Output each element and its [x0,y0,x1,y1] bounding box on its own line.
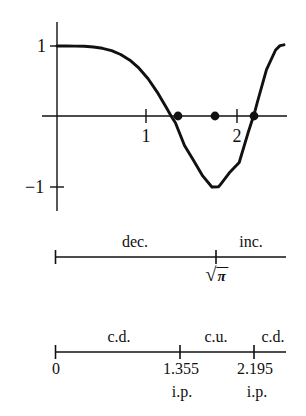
first-derivative-segment-dec: dec. [122,234,148,250]
radical-sign-icon: √ [205,264,216,284]
second-derivative-segment-cd-right: c.d. [261,329,284,345]
second-derivative-segment-cu: c.u. [204,329,227,345]
graph-point-3 [250,112,259,121]
first-derivative-number-line [55,250,286,264]
graph-point-1 [174,112,183,121]
x-axis-label-2: 2 [233,127,242,145]
graph-panel [42,22,287,211]
inflection-point-label-1355: i.p. [172,384,192,400]
second-derivative-number-line [55,345,286,359]
second-derivative-tick-label-1355: 1.355 [163,361,199,377]
x-axis-label-1: 1 [142,127,151,145]
figure-svg [0,0,306,416]
calculus-figure: 1 −1 1 2 dec. inc. √π c.d. c.u. c.d. 0 1… [0,0,306,416]
sqrt-pi-label: √π [205,264,228,286]
second-derivative-tick-label-0: 0 [52,361,60,377]
second-derivative-segment-cd-left: c.d. [107,329,130,345]
second-derivative-tick-label-2195: 2.195 [237,361,273,377]
first-derivative-segment-inc: inc. [239,234,263,250]
y-axis-label-1: 1 [37,37,46,55]
inflection-point-label-2195: i.p. [247,384,267,400]
y-axis-label-neg1: −1 [25,178,44,196]
graph-point-2 [211,112,220,121]
sqrt-pi-radicand: π [216,267,228,285]
